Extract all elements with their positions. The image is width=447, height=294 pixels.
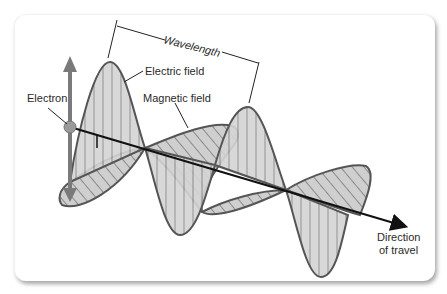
- wavelength-bracket: [108, 20, 259, 103]
- electric-lobe-3: [215, 107, 286, 190]
- em-wave-diagram: Wavelength Electric field Magnetic field…: [0, 0, 447, 294]
- electron-label: Electron: [27, 92, 67, 104]
- magnetic-lobe-3: [202, 190, 286, 214]
- magnetic-field-label: Magnetic field: [143, 92, 211, 104]
- direction-label-line1: Direction: [377, 231, 420, 243]
- electric-field-label: Electric field: [145, 65, 204, 77]
- wavelength-label: Wavelength: [163, 33, 222, 59]
- electric-field-leader: [124, 71, 143, 82]
- direction-label-line2: of travel: [379, 244, 418, 256]
- electron-leader: [48, 108, 67, 124]
- magnetic-field-leader: [175, 103, 188, 128]
